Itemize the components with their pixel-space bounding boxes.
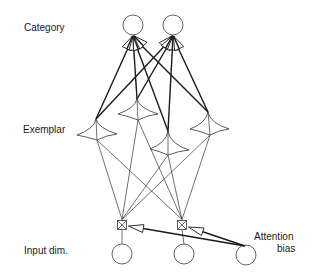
exemplar-layer-label: Exemplar	[23, 124, 66, 135]
input-layer-label: Input dim.	[24, 245, 68, 256]
label-layer: Category Exemplar Input dim. Attention b…	[0, 0, 317, 278]
attention-bias-label-line2: bias	[277, 243, 295, 254]
category-layer-label: Category	[24, 22, 65, 33]
attention-bias-label-line1: Attention	[254, 231, 293, 242]
